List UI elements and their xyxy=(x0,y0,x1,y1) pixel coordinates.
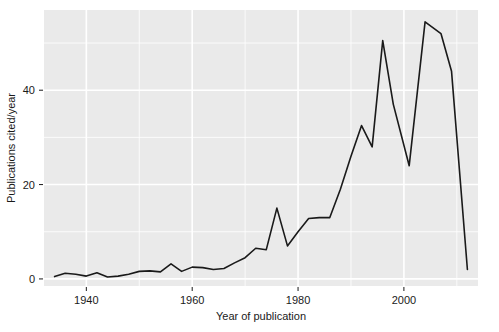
x-tick-label: 1940 xyxy=(74,294,98,306)
publications-cited-per-year-line-chart: 1940196019802000 02040 Year of publicati… xyxy=(0,0,499,332)
x-tick-label: 1960 xyxy=(180,294,204,306)
x-tick-label: 2000 xyxy=(392,294,416,306)
x-axis-title: Year of publication xyxy=(216,310,306,322)
x-tick-label: 1980 xyxy=(286,294,310,306)
y-tick-label: 40 xyxy=(23,84,35,96)
y-tick-label: 0 xyxy=(29,273,35,285)
chart-container: 1940196019802000 02040 Year of publicati… xyxy=(0,0,499,332)
y-tick-label: 20 xyxy=(23,179,35,191)
plot-panel-background xyxy=(44,10,478,286)
y-axis-title: Publications cited/year xyxy=(5,93,17,203)
